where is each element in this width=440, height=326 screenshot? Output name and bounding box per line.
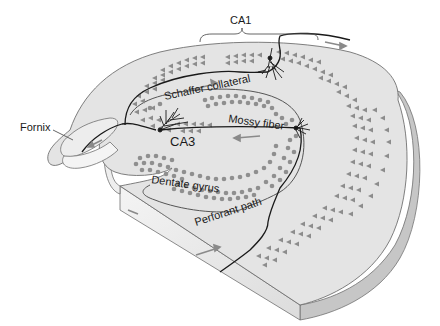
label-ca3: CA3 <box>170 134 195 149</box>
hippocampus-diagram: CA1 Fornix CA3 Schaffer collateral Mossy… <box>0 0 440 326</box>
label-fornix: Fornix <box>20 121 51 133</box>
label-ca1: CA1 <box>230 14 251 26</box>
ca1-bracket <box>200 28 318 42</box>
